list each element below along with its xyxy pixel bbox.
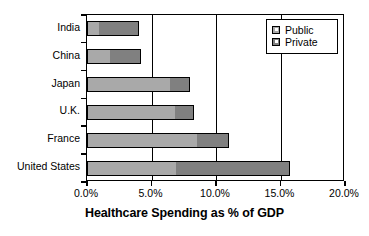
y-axis-label-france: France — [0, 133, 80, 144]
x-axis-tick-label: 15.0% — [265, 188, 295, 199]
x-axis-title: Healthcare Spending as % of GDP — [0, 206, 369, 220]
x-axis-tick — [215, 181, 217, 186]
x-axis-ticks — [0, 181, 369, 187]
y-axis-label-japan: Japan — [0, 78, 80, 89]
x-axis-tick-label: 0.0% — [74, 188, 98, 199]
healthcare-spending-chart: IndiaChinaJapanU.K.FranceUnited States 0… — [0, 0, 369, 236]
x-axis-tick — [151, 181, 153, 186]
legend-label: Private — [285, 37, 318, 48]
x-axis-tick-label: 5.0% — [139, 188, 163, 199]
private-swatch-icon — [272, 38, 280, 46]
x-axis-tick-label: 10.0% — [200, 188, 230, 199]
legend: PublicPrivate — [266, 19, 338, 54]
x-axis-tick — [280, 181, 282, 186]
public-swatch-icon — [272, 26, 280, 34]
x-axis-tick-label: 20.0% — [329, 188, 359, 199]
x-axis-tick-labels: 0.0%5.0%10.0%15.0%20.0% — [0, 188, 369, 202]
x-axis-tick — [86, 181, 88, 186]
y-axis-label-u-k: U.K. — [0, 105, 80, 116]
y-axis-label-india: India — [0, 22, 80, 33]
legend-item: Private — [272, 37, 332, 48]
x-axis-tick — [344, 181, 346, 186]
legend-item: Public — [272, 25, 332, 36]
y-axis-label-china: China — [0, 50, 80, 61]
y-axis-label-united-states: United States — [0, 161, 80, 172]
legend-label: Public — [285, 25, 314, 36]
